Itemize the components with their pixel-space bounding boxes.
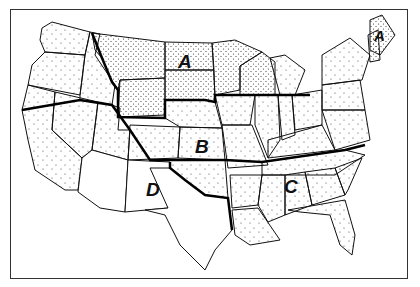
state-wy — [118, 78, 165, 117]
region-label-d: D — [146, 180, 160, 199]
state-fl — [288, 200, 355, 255]
state-wa — [40, 22, 90, 55]
state-co — [128, 125, 180, 160]
region-label-b: B — [195, 137, 209, 156]
state-ar — [230, 175, 262, 208]
state-sd — [165, 70, 215, 102]
region-label-c: C — [284, 177, 298, 196]
us-map — [0, 0, 420, 287]
state-ny — [322, 38, 370, 85]
region-label-a: A — [178, 52, 192, 71]
state-az — [78, 150, 128, 212]
state-ne — [165, 100, 222, 128]
region-label-a-newengland: A — [374, 28, 385, 43]
state-ia — [215, 95, 255, 125]
